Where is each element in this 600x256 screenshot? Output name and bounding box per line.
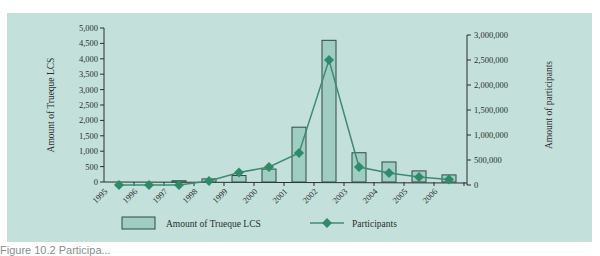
left-axis-tick-label: 3,500	[79, 69, 98, 79]
x-axis-tick-label: 2004	[360, 186, 380, 206]
x-axis-tick-label: 2005	[390, 186, 409, 205]
right-axis-tick-label: 1,500,000	[474, 105, 508, 115]
left-axis-tick-label: 4,000	[79, 54, 98, 64]
participants-diamond-marker	[114, 180, 124, 190]
left-axis-tick-label: 1,000	[79, 146, 98, 156]
legend-diamond-icon	[322, 218, 332, 228]
x-axis-tick-label: 2002	[300, 186, 319, 205]
left-axis-tick-label: 1,500	[79, 131, 98, 141]
right-axis-title: Amount of participants	[544, 61, 554, 149]
x-axis-tick-label: 2003	[330, 186, 349, 205]
figure-caption: Figure 10.2 Participa...	[0, 244, 111, 256]
left-axis-tick-label: 3,000	[79, 85, 98, 95]
left-axis-tick-label: 4,500	[79, 38, 98, 48]
legend-label-trueque: Amount of Trueque LCS	[166, 219, 261, 229]
x-axis-tick-label: 1995	[90, 186, 109, 205]
participants-line	[119, 60, 449, 185]
right-axis-tick-label: 3,000,000	[474, 30, 508, 40]
x-axis-tick-label: 1996	[120, 186, 139, 205]
left-axis-tick-label: 0	[94, 177, 98, 187]
participants-diamond-marker	[204, 176, 214, 186]
left-axis-tick-label: 5,000	[79, 23, 98, 33]
legend-bar-swatch	[122, 217, 155, 229]
x-axis-tick-label: 2000	[240, 186, 259, 205]
x-axis-tick-label: 1998	[180, 186, 199, 205]
left-axis-tick-label: 2,000	[79, 115, 98, 125]
x-axis-tick-label: 1997	[150, 186, 169, 205]
right-axis-tick-label: 2,500,000	[474, 55, 508, 65]
right-axis-tick-label: 500,000	[474, 155, 502, 165]
x-axis-tick-label: 2001	[270, 186, 289, 205]
left-axis-tick-label: 500	[85, 162, 98, 172]
right-axis-tick-label: 1,000,000	[474, 130, 508, 140]
left-axis-title: Amount of Trueque LCS	[46, 58, 56, 153]
x-axis-tick-label: 1999	[210, 186, 229, 205]
left-axis-tick-label: 2,500	[79, 100, 98, 110]
legend-label-participants: Participants	[352, 219, 397, 229]
right-axis-tick-label: 0	[474, 180, 478, 190]
right-axis-tick-label: 2,000,000	[474, 80, 508, 90]
x-axis-tick-label: 2006	[420, 186, 439, 205]
participants-diamond-marker	[144, 180, 154, 190]
